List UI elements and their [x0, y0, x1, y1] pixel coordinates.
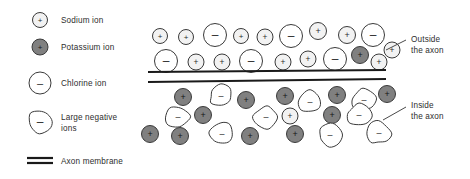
- plus-charge-icon: +: [282, 91, 287, 101]
- legend-item-axon-membrane: Axon membrane: [27, 157, 123, 166]
- chlorine-ion: –: [204, 24, 227, 47]
- potassium-ion: +: [329, 87, 346, 104]
- plus-charge-icon: +: [180, 92, 185, 102]
- plus-charge-icon: +: [158, 32, 163, 41]
- potassium-ion: +: [172, 128, 189, 145]
- plus-charge-icon: +: [243, 95, 248, 105]
- plus-charge-icon: +: [177, 131, 182, 141]
- legend-label-large-negative-line-2: ions: [61, 124, 77, 133]
- chlorine-ion: –: [155, 50, 178, 73]
- sodium-ion: +: [179, 30, 194, 45]
- potassium-ion: +: [324, 107, 341, 124]
- large-negative-ion: –: [320, 123, 343, 147]
- sodium-ion: +: [188, 54, 204, 70]
- sodium-ion: +: [300, 51, 316, 67]
- legend: +Sodium ion+Potassium ion–Chlorine ion–L…: [27, 13, 123, 167]
- legend-item-potassium: +Potassium ion: [32, 39, 115, 55]
- axon-membrane-lines: [148, 70, 386, 82]
- inside-ion-cloud: +–++–+–+–+–++–++–++––: [142, 84, 396, 147]
- potassium-ion: +: [242, 128, 259, 145]
- chlorine-ion: –: [362, 24, 385, 47]
- large-negative-ion: –: [252, 106, 277, 129]
- potassium-ion: +: [238, 92, 255, 109]
- minus-charge-icon: –: [218, 91, 223, 101]
- legend-item-sodium: +Sodium ion: [33, 13, 104, 28]
- sodium-ion: +: [282, 108, 298, 124]
- plus-charge-icon: +: [194, 57, 199, 67]
- plus-charge-icon: +: [377, 57, 382, 67]
- plus-charge-icon: +: [384, 89, 389, 99]
- large-negative-ion: –: [210, 84, 231, 105]
- minus-charge-icon: –: [356, 110, 361, 120]
- plus-charge-icon: +: [288, 111, 293, 121]
- potassium-ion: +: [277, 88, 294, 105]
- sodium-ion: +: [371, 54, 387, 70]
- potassium-ion: +: [195, 107, 212, 124]
- minus-charge-icon: –: [332, 52, 339, 66]
- plus-charge-icon: +: [184, 33, 189, 42]
- plus-charge-icon: +: [329, 110, 334, 120]
- minus-charge-icon: –: [219, 129, 224, 139]
- plus-charge-icon: +: [306, 54, 311, 64]
- chlorine-ion: –: [324, 48, 347, 71]
- legend-label-sodium: Sodium ion: [61, 16, 104, 25]
- plus-charge-icon: +: [38, 43, 43, 52]
- plus-charge-icon: +: [200, 110, 205, 120]
- callout-label-outside-the-axon-line-1: Outside: [411, 35, 441, 44]
- legend-label-large-negative-line-1: Large negative: [61, 113, 118, 122]
- axon-membrane-line-inner: [148, 79, 386, 82]
- large-negative-ion: –: [209, 122, 232, 143]
- leader-line-inside-the-axon: [383, 107, 406, 120]
- sodium-ion: +: [275, 54, 291, 70]
- plus-charge-icon: +: [147, 129, 152, 139]
- plus-charge-icon: +: [38, 16, 43, 25]
- callout-label-inside-the-axon-line-1: Inside: [411, 101, 434, 110]
- plus-charge-icon: +: [220, 57, 225, 67]
- diagram-canvas: +Sodium ion+Potassium ion–Chlorine ion–L…: [0, 0, 470, 179]
- sodium-ion: +: [214, 54, 230, 70]
- potassium-ion: +: [287, 126, 304, 143]
- minus-charge-icon: –: [370, 28, 377, 42]
- minus-charge-icon: –: [37, 115, 44, 129]
- potassium-ion: +: [352, 47, 369, 64]
- legend-label-axon-membrane: Axon membrane: [61, 157, 123, 166]
- legend-item-large-negative: –Large negativeions: [29, 111, 117, 134]
- minus-charge-icon: –: [212, 28, 219, 42]
- plus-charge-icon: +: [247, 131, 252, 141]
- callout-label-inside-the-axon-line-2: the axon: [411, 112, 444, 121]
- minus-charge-icon: –: [327, 130, 332, 140]
- axon-membrane-line-outer: [148, 70, 386, 72]
- sodium-ion: +: [257, 29, 273, 45]
- large-negative-ion: –: [367, 120, 392, 142]
- plus-charge-icon: +: [292, 129, 297, 139]
- plus-charge-icon: +: [334, 90, 339, 100]
- sodium-ion: +: [153, 29, 168, 44]
- minus-charge-icon: –: [263, 112, 268, 122]
- plus-charge-icon: +: [315, 26, 320, 36]
- potassium-ion: +: [175, 89, 192, 106]
- chlorine-ion: –: [280, 25, 303, 48]
- minus-charge-icon: –: [37, 77, 44, 89]
- potassium-ion: +: [379, 86, 396, 103]
- sodium-ion: +: [339, 27, 356, 44]
- large-negative-ion: –: [165, 107, 190, 127]
- plus-charge-icon: +: [281, 57, 286, 67]
- minus-charge-icon: –: [288, 29, 295, 43]
- minus-charge-icon: –: [307, 97, 312, 107]
- sodium-ion: +: [234, 29, 249, 44]
- callout-label-outside-the-axon-line-2: the axon: [411, 46, 444, 55]
- potassium-ion: +: [142, 126, 159, 143]
- chlorine-ion: –: [240, 50, 263, 73]
- minus-charge-icon: –: [248, 54, 255, 68]
- outside-ion-cloud: ++–++–++––++–++–+++: [153, 23, 401, 73]
- callout-inside-the-axon: Insidethe axon: [383, 101, 444, 121]
- plus-charge-icon: +: [239, 32, 244, 41]
- legend-label-potassium: Potassium ion: [61, 43, 115, 52]
- large-negative-ion: –: [298, 90, 320, 112]
- axon-membrane-diagram: +Sodium ion+Potassium ion–Chlorine ion–L…: [0, 0, 470, 179]
- minus-charge-icon: –: [175, 112, 180, 122]
- sodium-ion: +: [310, 23, 327, 40]
- minus-charge-icon: –: [163, 54, 170, 68]
- plus-charge-icon: +: [263, 32, 268, 42]
- plus-charge-icon: +: [344, 30, 349, 40]
